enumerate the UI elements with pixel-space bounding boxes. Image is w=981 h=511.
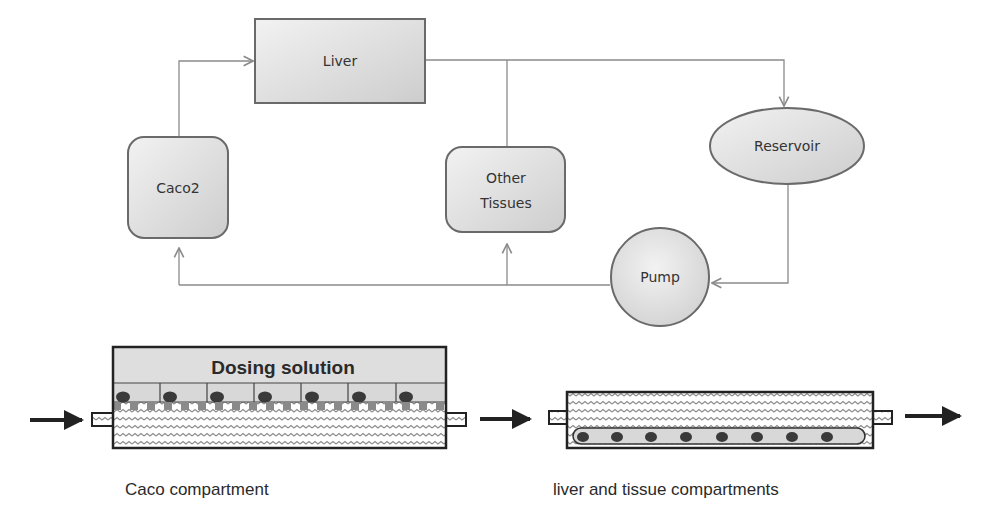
- flowchart: Liver Caco2 Other Tissues Reservoir Pump: [128, 19, 864, 326]
- caco-inlet-tube: [92, 413, 114, 426]
- caco-compartment: Dosing solution: [92, 347, 466, 448]
- node-liver: Liver: [255, 19, 425, 103]
- caco-compartment-caption: Caco compartment: [125, 480, 269, 499]
- node-pump-label: Pump: [640, 269, 680, 285]
- node-reservoir-label: Reservoir: [754, 138, 820, 154]
- node-reservoir: Reservoir: [710, 108, 864, 184]
- liver-tissue-compartment: [549, 392, 892, 448]
- edge-liver-to-reservoir: [426, 60, 784, 106]
- node-liver-label: Liver: [323, 53, 358, 69]
- liver-outlet-tube: [872, 411, 892, 424]
- node-other-tissues: Other Tissues: [446, 147, 565, 232]
- node-caco2: Caco2: [128, 137, 228, 238]
- edge-reservoir-to-pump: [712, 184, 788, 283]
- node-pump: Pump: [611, 228, 709, 326]
- pbpk-diagram: Liver Caco2 Other Tissues Reservoir Pump: [0, 0, 981, 511]
- node-other-tissues-label-line1: Other: [486, 170, 526, 186]
- hepatocyte-layer: [573, 428, 865, 444]
- edge-caco2-to-liver: [179, 61, 253, 137]
- node-caco2-label: Caco2: [156, 180, 200, 196]
- liver-tissue-compartment-caption: liver and tissue compartments: [553, 480, 779, 499]
- dosing-solution-label: Dosing solution: [211, 357, 355, 378]
- caco-outlet-tube: [444, 413, 466, 426]
- node-other-tissues-label-line2: Tissues: [479, 195, 531, 211]
